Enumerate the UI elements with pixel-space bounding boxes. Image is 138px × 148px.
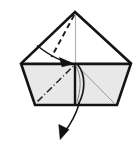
origami-diagram [0,0,138,148]
origami-figure [0,0,138,148]
